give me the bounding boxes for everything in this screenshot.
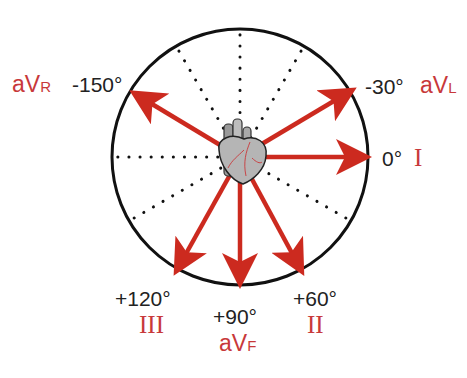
lead-label-III: III xyxy=(139,312,164,337)
lead-label-aVR: aVR xyxy=(12,73,51,96)
angle-label-plus60: +60° xyxy=(293,288,337,309)
angle-label-minus30: -30° xyxy=(365,76,404,97)
angle-label-0: 0° xyxy=(382,148,402,169)
lead-label-aVL: aVL xyxy=(420,74,456,97)
angle-label-plus90: +90° xyxy=(213,306,257,327)
lead-arrows xyxy=(137,92,363,280)
lead-label-aVF: aVF xyxy=(219,332,256,355)
angle-label-plus120: +120° xyxy=(115,288,171,309)
lead-label-II: II xyxy=(307,312,324,337)
lead-label-I: I xyxy=(414,145,422,170)
angle-label-minus150: -150° xyxy=(72,74,122,95)
heart-icon xyxy=(219,119,266,184)
